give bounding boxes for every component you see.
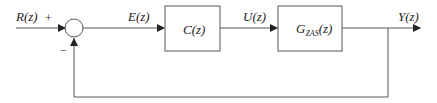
plant-label-main: G (296, 21, 305, 36)
input-label: R(z) (16, 10, 38, 23)
minus-sign: − (60, 44, 67, 56)
controller-label: C(z) (183, 23, 205, 36)
feedback-path (74, 28, 388, 97)
control-label: U(z) (243, 10, 266, 23)
output-label: Y(z) (398, 10, 419, 23)
plant-label: GZAS(z) (296, 22, 332, 38)
plant-label-subscript: ZAS (305, 29, 318, 38)
feedback-arrowhead (70, 38, 78, 46)
plant-label-arg: (z) (319, 21, 333, 36)
summing-junction (65, 19, 83, 37)
plus-sign: + (45, 12, 52, 24)
error-label: E(z) (128, 10, 150, 23)
